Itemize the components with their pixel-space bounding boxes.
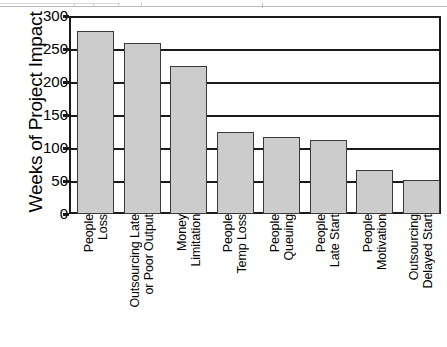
x-tick-label-line: People (362, 214, 375, 252)
x-tick-label-line: Delayed Start (422, 214, 435, 288)
x-tick-label: Outsourcing Late or Poor Output (124, 214, 161, 347)
bar-chart: Weeks of Project Impact 300 250 200 150 … (0, 0, 447, 347)
y-axis-title: Weeks of Project Impact (25, 0, 47, 228)
bar[interactable] (217, 132, 254, 215)
bar[interactable] (403, 180, 440, 214)
x-tick-label-line: People (269, 214, 282, 252)
x-tick-label: Money Limitation (170, 214, 207, 347)
x-tick-label-line: People (83, 214, 96, 252)
bar[interactable] (310, 140, 347, 214)
x-tick-label-line: Outsourcing (408, 214, 421, 280)
x-tick-label-line: Motivation (376, 214, 389, 270)
scan-artifact (0, 3, 447, 9)
x-tick-label: People Loss (77, 214, 114, 347)
bar[interactable] (356, 170, 393, 214)
x-tick-label: People Late Start (310, 214, 347, 347)
x-tick-label-line: Limitation (190, 214, 203, 267)
bars-layer (69, 16, 441, 214)
x-tick-label-line: Queuing (283, 214, 296, 261)
x-tick-label: Outsourcing Delayed Start (403, 214, 440, 347)
x-tick-label-line: Temp Loss (236, 214, 249, 274)
x-tick-label: People Motivation (356, 214, 393, 347)
x-axis-category-labels: People Loss Outsourcing Late or Poor Out… (69, 214, 441, 347)
bar[interactable] (124, 43, 161, 214)
bar[interactable] (77, 31, 114, 214)
bar[interactable] (263, 137, 300, 214)
x-tick-label-line: Outsourcing Late (129, 214, 142, 308)
x-tick-label: People Queuing (263, 214, 300, 347)
x-tick-label-line: Loss (97, 214, 110, 240)
x-tick-label-line: Money (176, 214, 189, 251)
x-tick-label-line: People (222, 214, 235, 252)
x-tick-label: People Temp Loss (217, 214, 254, 347)
bar[interactable] (170, 66, 207, 215)
x-tick-label-line: People (315, 214, 328, 252)
x-tick-label-line: Late Start (329, 214, 342, 267)
x-tick-label-line: or Poor Output (143, 214, 156, 295)
